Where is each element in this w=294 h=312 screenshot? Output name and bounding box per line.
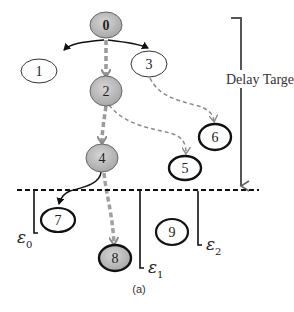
epsilon-2-symbol: ε: [206, 234, 215, 254]
svg-text:7: 7: [55, 213, 62, 228]
svg-text:5: 5: [182, 161, 189, 176]
figure-caption: (a): [132, 283, 145, 295]
edge-0-1: [64, 40, 104, 50]
epsilon-0-subscript: 0: [26, 239, 32, 250]
svg-text:1: 1: [36, 64, 43, 79]
epsilon-2: ε 2: [198, 191, 221, 257]
node-3: 3: [131, 51, 167, 77]
node-9: 9: [156, 219, 188, 245]
svg-text:0: 0: [103, 18, 110, 33]
svg-text:3: 3: [146, 57, 153, 72]
svg-text:6: 6: [212, 130, 219, 145]
delay-target-label: Delay Target: [226, 72, 294, 87]
node-0: 0: [90, 12, 122, 38]
epsilon-2-bar: [198, 191, 202, 245]
svg-text:2: 2: [103, 84, 110, 99]
edge-0-3: [108, 40, 148, 48]
epsilon-0-bar: [34, 191, 38, 233]
epsilon-1-subscript: 1: [157, 269, 163, 280]
epsilon-1-symbol: ε: [148, 257, 157, 277]
node-7: 7: [41, 208, 75, 232]
node-1: 1: [21, 59, 57, 83]
svg-text:8: 8: [112, 251, 119, 266]
svg-text:4: 4: [99, 151, 106, 166]
task-tree-diagram: Delay Target ε 0 ε 1 ε 2 0 1 2 3: [0, 0, 294, 312]
node-2: 2: [90, 76, 122, 106]
epsilon-1-bar: [140, 191, 144, 268]
delay-target-top-tick: [231, 18, 241, 70]
epsilon-2-subscript: 2: [215, 246, 221, 257]
epsilon-0-symbol: ε: [17, 227, 26, 247]
edge-2-5: [109, 105, 186, 153]
edge-4-7: [59, 172, 101, 204]
node-8: 8: [99, 245, 131, 271]
node-6: 6: [199, 124, 231, 150]
delay-target-bracket: Delay Target: [226, 18, 294, 186]
svg-text:9: 9: [169, 225, 176, 240]
edge-2-4: [102, 106, 106, 142]
epsilon-0: ε 0: [17, 191, 38, 250]
node-4: 4: [86, 144, 118, 172]
edge-3-6: [150, 78, 214, 121]
nodes: 0 1 2 3 4 5 6 7: [21, 12, 231, 271]
node-5: 5: [169, 156, 201, 180]
edge-4-8: [104, 173, 114, 243]
